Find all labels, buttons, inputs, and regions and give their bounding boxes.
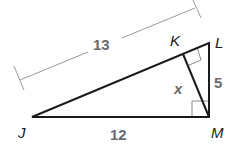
vertex-label-j: J (17, 124, 26, 141)
vertex-label-m: M (211, 124, 224, 141)
triangle-diagram: 13 K L 5 x J 12 M (0, 0, 230, 146)
label-side-lm: 5 (214, 74, 222, 91)
label-altitude-x: x (173, 80, 183, 97)
triangle-jlm (32, 43, 209, 117)
label-hypotenuse-length: 13 (93, 36, 110, 53)
vertex-label-k: K (170, 32, 181, 49)
altitude-km (183, 54, 209, 117)
vertex-label-l: L (215, 34, 223, 51)
label-side-jm: 12 (110, 126, 127, 143)
